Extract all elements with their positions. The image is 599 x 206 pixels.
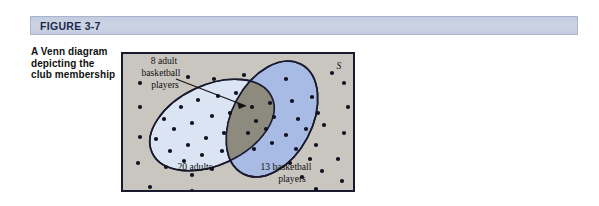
member-dot-right-only bbox=[320, 169, 324, 173]
member-dot-right-only bbox=[296, 117, 300, 121]
member-dot-outside bbox=[242, 73, 246, 77]
basketball-label-line1: 13 basketball bbox=[261, 161, 312, 172]
figure-number-label: FIGURE 3-7 bbox=[40, 20, 101, 32]
member-dot-outside bbox=[314, 187, 318, 191]
member-dot-outside bbox=[138, 81, 142, 85]
member-dot-left-only bbox=[168, 149, 172, 153]
member-dot-left-only bbox=[164, 165, 168, 169]
member-dot-left-only bbox=[234, 91, 238, 95]
member-dot-left-only bbox=[190, 173, 194, 177]
member-dot-left-only bbox=[228, 111, 232, 115]
intersection-label-line1: 8 adult bbox=[151, 55, 178, 66]
member-dot-outside bbox=[138, 135, 142, 139]
member-dot-left-only bbox=[186, 143, 190, 147]
member-dot-left-only bbox=[162, 117, 166, 121]
intersection-label-line3: players bbox=[151, 79, 179, 90]
member-dot-left-only bbox=[220, 149, 224, 153]
member-dot-intersection bbox=[268, 101, 272, 105]
member-dot-outside bbox=[190, 189, 194, 193]
member-dot-left-only bbox=[204, 136, 208, 140]
member-dot-outside bbox=[138, 105, 142, 109]
member-dot-left-only bbox=[172, 127, 176, 131]
member-dot-left-only bbox=[210, 114, 214, 118]
member-dot-outside bbox=[212, 77, 216, 81]
figure-caption: A Venn diagram depicting the club member… bbox=[31, 46, 117, 81]
member-dot-outside bbox=[340, 179, 344, 183]
figure-header-band: FIGURE 3-7 bbox=[30, 16, 578, 35]
member-dot-left-only bbox=[200, 153, 204, 157]
intersection-label-line2: basketball bbox=[142, 67, 181, 78]
venn-diagram-svg: S 8 adult basketball players 20 adults 1… bbox=[120, 51, 356, 193]
member-dot-intersection bbox=[264, 127, 268, 131]
basketball-label-line2: players bbox=[278, 173, 306, 184]
member-dot-right-only bbox=[314, 143, 318, 147]
member-dot-outside bbox=[186, 75, 190, 79]
member-dot-outside bbox=[342, 81, 346, 85]
member-dot-outside bbox=[284, 77, 288, 81]
member-dot-outside bbox=[136, 161, 140, 165]
member-dot-left-only bbox=[196, 98, 200, 102]
member-dot-intersection bbox=[270, 141, 274, 145]
member-dot-left-only bbox=[179, 105, 183, 109]
universal-set-label: S bbox=[337, 60, 342, 71]
member-dot-intersection bbox=[272, 115, 276, 119]
member-dot-intersection bbox=[254, 119, 258, 123]
member-dot-left-only bbox=[222, 131, 226, 135]
member-dot-outside bbox=[330, 71, 334, 75]
member-dot-right-only bbox=[294, 147, 298, 151]
member-dot-right-only bbox=[316, 111, 320, 115]
adults-label: 20 adults bbox=[178, 161, 213, 172]
member-dot-intersection bbox=[250, 105, 254, 109]
member-dot-outside bbox=[336, 157, 340, 161]
member-dot-right-only bbox=[290, 99, 294, 103]
member-dot-right-only bbox=[322, 123, 326, 127]
member-dot-right-only bbox=[284, 133, 288, 137]
venn-diagram: S 8 adult basketball players 20 adults 1… bbox=[120, 51, 356, 193]
member-dot-intersection bbox=[246, 131, 250, 135]
member-dot-left-only bbox=[154, 137, 158, 141]
member-dot-intersection bbox=[252, 147, 256, 151]
member-dot-outside bbox=[342, 131, 346, 135]
member-dot-right-only bbox=[310, 95, 314, 99]
member-dot-right-only bbox=[304, 127, 308, 131]
member-dot-outside bbox=[148, 185, 152, 189]
member-dot-outside bbox=[346, 105, 350, 109]
member-dot-left-only bbox=[190, 121, 194, 125]
